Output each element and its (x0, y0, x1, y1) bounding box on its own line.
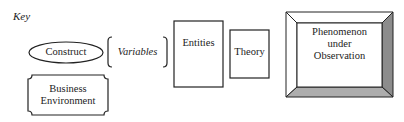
phenomenon-line3: Observation (297, 50, 382, 62)
variables-label: Variables (112, 46, 163, 58)
phenomenon-label: Phenomenon under Observation (297, 26, 382, 62)
business-environment-label: Business Environment (28, 83, 108, 107)
theory-label: Theory (230, 46, 269, 58)
business-environment-line2: Environment (28, 95, 108, 107)
phenomenon-line2: under (297, 38, 382, 50)
variables-right-bracket (163, 37, 167, 67)
entities-label: Entities (174, 37, 223, 49)
construct-label: Construct (29, 46, 103, 58)
business-environment-line1: Business (28, 83, 108, 95)
entities-box (174, 21, 223, 87)
phenomenon-line1: Phenomenon (297, 26, 382, 38)
